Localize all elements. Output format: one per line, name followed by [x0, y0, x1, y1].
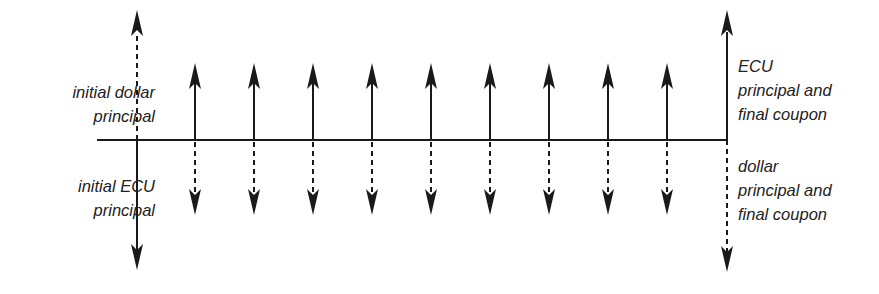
arrowhead-down-icon: [366, 189, 378, 215]
arrowhead-down-icon: [543, 189, 555, 215]
arrowhead-down-icon: [248, 189, 260, 215]
label-line: final coupon: [738, 202, 832, 226]
label-line: principal and: [738, 78, 832, 102]
label-line: principal and: [738, 178, 832, 202]
label-line: initial dollar: [72, 80, 155, 104]
arrowhead-down-icon: [307, 189, 319, 215]
label-initial-dollar-principal: initial dollar principal: [72, 80, 155, 128]
arrowhead-down-icon: [661, 189, 673, 215]
label-line: principal: [72, 104, 155, 128]
arrowhead-down-icon: [425, 189, 437, 215]
arrowhead-down-icon: [189, 189, 201, 215]
arrowhead-down-icon: [484, 189, 496, 215]
arrowhead-up-icon: [131, 10, 143, 36]
label-line: dollar: [738, 154, 832, 178]
label-initial-ecu-principal: initial ECU principal: [78, 174, 155, 222]
label-line: ECU: [738, 54, 832, 78]
label-line: final coupon: [738, 102, 832, 126]
label-line: principal: [78, 198, 155, 222]
label-ecu-principal-final-coupon: ECU principal and final coupon: [738, 54, 832, 126]
currency-swap-cashflow-diagram: [0, 0, 879, 294]
label-dollar-principal-final-coupon: dollar principal and final coupon: [738, 154, 832, 226]
label-line: initial ECU: [78, 174, 155, 198]
arrowhead-down-icon: [602, 189, 614, 215]
